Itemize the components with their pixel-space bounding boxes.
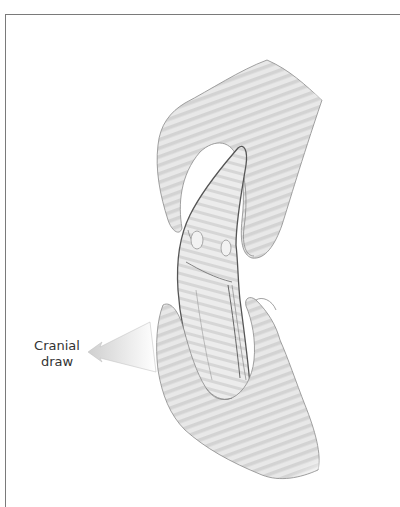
- cranial-draw-label: Cranial draw: [24, 338, 90, 370]
- label-line-2: draw: [24, 354, 90, 370]
- cranial-draw-arrow-icon: [88, 322, 156, 372]
- label-line-1: Cranial: [24, 338, 90, 354]
- knee-exam-illustration: [0, 0, 400, 507]
